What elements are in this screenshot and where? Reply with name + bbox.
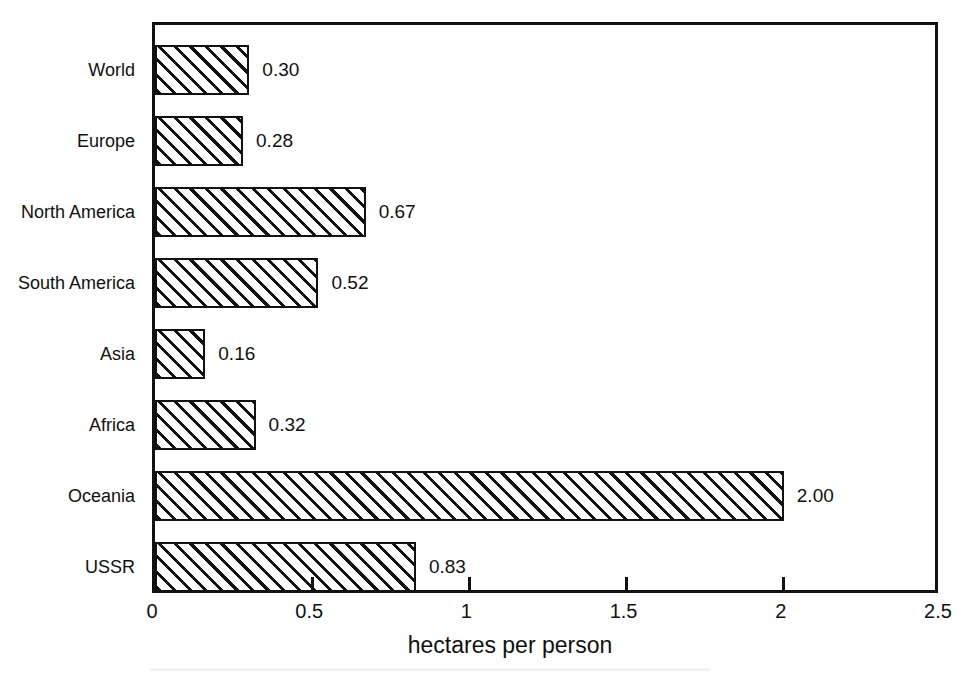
bar-value-label: 0.32	[269, 400, 306, 450]
bar-value-label: 0.16	[218, 329, 255, 379]
category-label-world: World	[0, 45, 135, 95]
chart-page: WorldEuropeNorth AmericaSouth AmericaAsi…	[0, 0, 968, 675]
bar-value-label: 0.67	[379, 187, 416, 237]
bar-value-label: 0.52	[331, 258, 368, 308]
category-axis-labels: WorldEuropeNorth AmericaSouth AmericaAsi…	[0, 22, 135, 593]
bar-south-america[interactable]	[155, 258, 318, 308]
x-axis-tick-label: 2.5	[924, 600, 952, 623]
x-axis-tick-label: 1.5	[610, 600, 638, 623]
category-label-north-america: North America	[0, 187, 135, 237]
bar-value-label: 2.00	[797, 471, 834, 521]
category-label-europe: Europe	[0, 116, 135, 166]
x-axis-tick	[782, 577, 785, 590]
bar-africa[interactable]	[155, 400, 256, 450]
x-axis-tick-label: 2	[775, 600, 786, 623]
bar-asia[interactable]	[155, 329, 205, 379]
bar-row: 0.32	[155, 400, 935, 450]
bar-row: 0.83	[155, 542, 935, 592]
bar-row: 0.67	[155, 187, 935, 237]
x-axis-tick	[468, 577, 471, 590]
category-label-asia: Asia	[0, 329, 135, 379]
bar-value-label: 0.30	[262, 45, 299, 95]
bar-row: 2.00	[155, 471, 935, 521]
x-axis-tick	[311, 577, 314, 590]
bar-value-label: 0.28	[256, 116, 293, 166]
bar-row: 0.30	[155, 45, 935, 95]
bar-value-label: 0.83	[429, 542, 466, 592]
category-label-south-america: South America	[0, 258, 135, 308]
bar-row: 0.16	[155, 329, 935, 379]
x-axis-tick-label: 0	[146, 600, 157, 623]
bar-world[interactable]	[155, 45, 249, 95]
x-axis-title-text: hectares per person	[408, 632, 613, 659]
x-axis-tick-label: 1	[461, 600, 472, 623]
scan-artifact	[150, 668, 710, 671]
category-label-africa: Africa	[0, 400, 135, 450]
category-label-oceania: Oceania	[0, 471, 135, 521]
x-axis-title: hectares per person	[0, 632, 968, 659]
bar-europe[interactable]	[155, 116, 243, 166]
bar-row: 0.28	[155, 116, 935, 166]
bar-oceania[interactable]	[155, 471, 784, 521]
bar-north-america[interactable]	[155, 187, 366, 237]
bar-ussr[interactable]	[155, 542, 416, 592]
bar-row: 0.52	[155, 258, 935, 308]
category-label-ussr: USSR	[0, 542, 135, 592]
x-axis-tick	[625, 577, 628, 590]
x-axis-tick-label: 0.5	[295, 600, 323, 623]
plot-area: 0.300.280.670.520.160.322.000.83	[152, 22, 938, 593]
